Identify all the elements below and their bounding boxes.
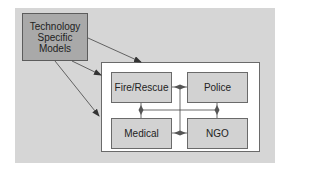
arrow-to-container-left-lower	[55, 61, 99, 116]
diamond-fire-police	[174, 85, 186, 90]
diamond-medical-ngo	[174, 131, 186, 136]
agency-label-ngo: NGO	[206, 128, 229, 139]
arrow-to-container-left-upper	[72, 61, 101, 75]
agency-label-fire-rescue: Fire/Rescue	[115, 82, 169, 93]
agency-box-medical: Medical	[111, 118, 172, 149]
agency-box-ngo: NGO	[187, 118, 248, 149]
agency-box-fire-rescue: Fire/Rescue	[111, 72, 172, 103]
arrow-to-container-top	[88, 38, 141, 62]
diamond-police-ngo	[215, 105, 220, 115]
diamond-fire-medical	[139, 105, 144, 115]
agency-label-medical: Medical	[124, 128, 158, 139]
agency-box-police: Police	[187, 72, 248, 103]
agency-label-police: Police	[204, 82, 231, 93]
